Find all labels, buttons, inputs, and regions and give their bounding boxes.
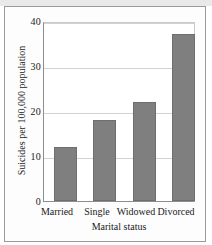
y-tick-label: 20 [3,107,41,117]
y-tick-label: 40 [3,17,41,27]
x-axis-title: Marital status [43,221,195,232]
y-tick-label: 10 [3,152,41,162]
y-tick-label: 30 [3,62,41,72]
bar-widowed [133,102,156,201]
bar-divorced [172,34,195,201]
bar-single [93,120,116,201]
figure-container: Suicides per 100,000 population 40 30 20… [0,0,212,245]
plot-area [43,22,195,202]
x-tick-label-divorced: Divorced [145,206,207,217]
bar-married [54,147,77,201]
gridline-40 [44,23,194,24]
